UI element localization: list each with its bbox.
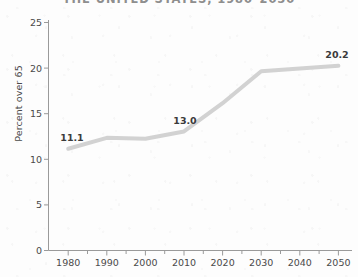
x-tick-label-2040: 2040 (280, 257, 320, 268)
y-axis-ticks (44, 23, 49, 251)
data-series-line (68, 66, 338, 149)
x-axis-tick-labels: 1980 1990 2000 2010 2020 2030 2040 2050 (0, 257, 358, 275)
x-tick-label-2050: 2050 (318, 257, 358, 268)
x-tick-label-2010: 2010 (164, 257, 204, 268)
x-axis-ticks (68, 251, 338, 256)
x-tick-label-1990: 1990 (87, 257, 127, 268)
x-tick-label-2030: 2030 (241, 257, 281, 268)
data-label-2010: 13.0 (173, 115, 196, 126)
data-label-1980: 11.1 (60, 132, 83, 143)
plot-area (0, 0, 358, 277)
x-tick-label-2020: 2020 (203, 257, 243, 268)
x-tick-label-1980: 1980 (48, 257, 88, 268)
x-tick-label-2000: 2000 (125, 257, 165, 268)
chart-figure: THE UNITED STATES, 1980–2050 Percent ove… (0, 0, 358, 277)
data-label-2050: 20.2 (325, 49, 348, 60)
